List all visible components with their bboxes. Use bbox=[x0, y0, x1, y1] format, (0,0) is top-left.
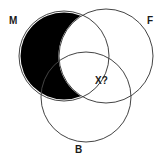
venn-diagram: M F B X? bbox=[0, 0, 162, 159]
label-m: M bbox=[9, 15, 17, 26]
label-b: B bbox=[75, 144, 82, 155]
question-label: X? bbox=[95, 75, 108, 86]
shaded-region-m-only bbox=[21, 13, 108, 100]
label-f: F bbox=[147, 15, 153, 26]
